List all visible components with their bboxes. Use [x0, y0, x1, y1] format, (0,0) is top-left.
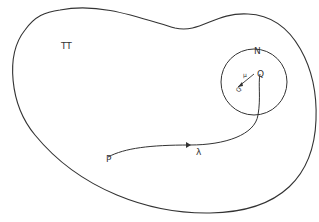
path-label: λ [196, 148, 201, 157]
region-label: TT [61, 42, 72, 51]
start-point-label: P [106, 155, 111, 164]
neighborhood-label: N [254, 47, 261, 56]
arrow-icon [186, 142, 191, 148]
neighborhood-circle [221, 49, 287, 115]
diagram-svg [0, 0, 319, 222]
diagram-canvas: TT N Q Q' μ P λ [0, 0, 319, 222]
segment-label: μ [243, 72, 247, 78]
end-point-label: Q [257, 70, 264, 79]
